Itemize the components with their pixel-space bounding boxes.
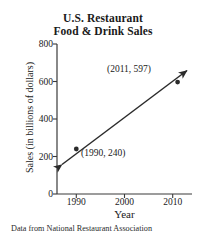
data-point-label-1990: (1990, 240) <box>81 148 125 158</box>
x-tick-label: 1990 <box>67 197 86 207</box>
x-tick-label: 2010 <box>163 197 182 207</box>
source-note: Data from National Restaurant Associatio… <box>11 224 152 233</box>
x-tick-label: 2000 <box>115 197 134 207</box>
x-axis-title: Year <box>57 208 192 220</box>
data-point-label-2011: (2011, 597) <box>107 64 151 74</box>
chart-figure: U.S. Restaurant Food & Drink Sales Sales… <box>0 0 206 249</box>
data-point-2011 <box>175 80 180 85</box>
data-point-1990 <box>74 147 79 152</box>
